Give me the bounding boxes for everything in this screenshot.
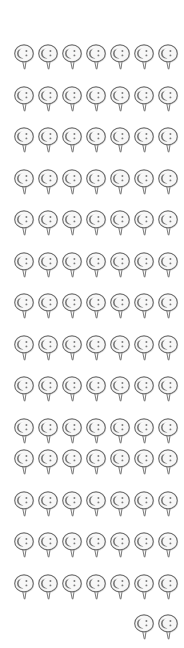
balloon-pin-face-icon[interactable] xyxy=(85,447,107,477)
balloon-pin-face-icon[interactable] xyxy=(109,374,131,404)
balloon-pin-face-icon[interactable] xyxy=(109,167,131,197)
balloon-pin-face-icon[interactable] xyxy=(157,489,179,519)
balloon-pin-face-icon[interactable] xyxy=(37,42,59,72)
balloon-pin-face-icon[interactable] xyxy=(85,530,107,560)
balloon-pin-face-icon[interactable] xyxy=(133,374,155,404)
balloon-pin-face-icon[interactable] xyxy=(37,84,59,114)
balloon-pin-face-icon[interactable] xyxy=(85,333,107,363)
balloon-pin-face-icon[interactable] xyxy=(109,416,131,446)
balloon-pin-face-icon[interactable] xyxy=(13,208,35,238)
balloon-pin-face-icon[interactable] xyxy=(133,250,155,280)
balloon-pin-face-icon[interactable] xyxy=(133,572,155,602)
balloon-pin-face-icon[interactable] xyxy=(61,416,83,446)
balloon-pin-face-icon[interactable] xyxy=(61,291,83,321)
balloon-pin-face-icon[interactable] xyxy=(37,167,59,197)
balloon-pin-face-icon[interactable] xyxy=(85,167,107,197)
balloon-pin-face-icon[interactable] xyxy=(157,250,179,280)
balloon-pin-face-icon[interactable] xyxy=(37,489,59,519)
balloon-pin-face-icon[interactable] xyxy=(13,374,35,404)
balloon-pin-face-icon[interactable] xyxy=(61,42,83,72)
balloon-pin-face-icon[interactable] xyxy=(61,208,83,238)
balloon-pin-face-icon[interactable] xyxy=(37,333,59,363)
balloon-pin-face-icon[interactable] xyxy=(109,42,131,72)
balloon-pin-face-icon[interactable] xyxy=(13,333,35,363)
balloon-pin-face-icon[interactable] xyxy=(13,42,35,72)
balloon-pin-face-icon[interactable] xyxy=(157,42,179,72)
balloon-pin-face-icon[interactable] xyxy=(133,291,155,321)
balloon-pin-face-icon[interactable] xyxy=(13,291,35,321)
balloon-pin-face-icon[interactable] xyxy=(61,125,83,155)
balloon-pin-face-icon[interactable] xyxy=(109,489,131,519)
balloon-pin-face-icon[interactable] xyxy=(133,530,155,560)
balloon-pin-face-icon[interactable] xyxy=(133,42,155,72)
balloon-pin-face-icon[interactable] xyxy=(37,530,59,560)
balloon-pin-face-icon[interactable] xyxy=(133,208,155,238)
balloon-pin-face-icon[interactable] xyxy=(13,572,35,602)
balloon-pin-face-icon[interactable] xyxy=(133,416,155,446)
balloon-pin-face-icon[interactable] xyxy=(61,167,83,197)
balloon-pin-face-icon[interactable] xyxy=(13,416,35,446)
balloon-pin-face-icon[interactable] xyxy=(133,612,155,642)
balloon-pin-face-icon[interactable] xyxy=(85,489,107,519)
balloon-pin-face-icon[interactable] xyxy=(157,612,179,642)
balloon-pin-face-icon[interactable] xyxy=(13,125,35,155)
balloon-pin-face-icon[interactable] xyxy=(157,416,179,446)
balloon-pin-face-icon[interactable] xyxy=(37,250,59,280)
balloon-pin-face-icon[interactable] xyxy=(61,489,83,519)
balloon-pin-face-icon[interactable] xyxy=(109,530,131,560)
balloon-pin-face-icon[interactable] xyxy=(13,489,35,519)
balloon-pin-face-icon[interactable] xyxy=(61,333,83,363)
balloon-pin-face-icon[interactable] xyxy=(13,167,35,197)
balloon-pin-face-icon[interactable] xyxy=(157,84,179,114)
balloon-pin-face-icon[interactable] xyxy=(13,250,35,280)
balloon-pin-face-icon[interactable] xyxy=(85,374,107,404)
balloon-pin-face-icon[interactable] xyxy=(133,84,155,114)
balloon-pin-face-icon[interactable] xyxy=(37,572,59,602)
balloon-pin-face-icon[interactable] xyxy=(133,167,155,197)
balloon-pin-face-icon[interactable] xyxy=(13,447,35,477)
balloon-pin-face-icon[interactable] xyxy=(85,250,107,280)
balloon-pin-face-icon[interactable] xyxy=(109,572,131,602)
balloon-pin-face-icon[interactable] xyxy=(61,250,83,280)
balloon-pin-face-icon[interactable] xyxy=(13,84,35,114)
balloon-pin-face-icon[interactable] xyxy=(109,84,131,114)
balloon-pin-face-icon[interactable] xyxy=(37,374,59,404)
balloon-pin-face-icon[interactable] xyxy=(37,208,59,238)
balloon-pin-face-icon[interactable] xyxy=(157,530,179,560)
balloon-pin-face-icon[interactable] xyxy=(109,208,131,238)
balloon-pin-face-icon[interactable] xyxy=(157,291,179,321)
balloon-pin-face-icon[interactable] xyxy=(85,125,107,155)
balloon-pin-face-icon[interactable] xyxy=(109,447,131,477)
balloon-pin-face-icon[interactable] xyxy=(85,208,107,238)
balloon-pin-face-icon[interactable] xyxy=(37,447,59,477)
balloon-pin-face-icon[interactable] xyxy=(37,416,59,446)
balloon-pin-face-icon[interactable] xyxy=(109,250,131,280)
balloon-pin-face-icon[interactable] xyxy=(133,447,155,477)
balloon-pin-face-icon[interactable] xyxy=(157,447,179,477)
balloon-pin-face-icon[interactable] xyxy=(61,84,83,114)
balloon-pin-face-icon[interactable] xyxy=(61,572,83,602)
balloon-pin-face-icon[interactable] xyxy=(13,530,35,560)
balloon-pin-face-icon[interactable] xyxy=(85,84,107,114)
balloon-pin-face-icon[interactable] xyxy=(61,530,83,560)
balloon-pin-face-icon[interactable] xyxy=(133,125,155,155)
balloon-pin-face-icon[interactable] xyxy=(85,416,107,446)
balloon-pin-face-icon[interactable] xyxy=(157,167,179,197)
balloon-pin-face-icon[interactable] xyxy=(109,125,131,155)
balloon-pin-face-icon[interactable] xyxy=(157,125,179,155)
balloon-pin-face-icon[interactable] xyxy=(37,125,59,155)
balloon-pin-face-icon[interactable] xyxy=(109,333,131,363)
balloon-pin-face-icon[interactable] xyxy=(61,447,83,477)
balloon-pin-face-icon[interactable] xyxy=(133,489,155,519)
balloon-pin-face-icon[interactable] xyxy=(109,291,131,321)
balloon-pin-face-icon[interactable] xyxy=(157,374,179,404)
balloon-pin-face-icon[interactable] xyxy=(157,208,179,238)
balloon-pin-face-icon[interactable] xyxy=(157,333,179,363)
balloon-pin-face-icon[interactable] xyxy=(37,291,59,321)
balloon-pin-face-icon[interactable] xyxy=(85,572,107,602)
balloon-pin-face-icon[interactable] xyxy=(85,42,107,72)
balloon-pin-face-icon[interactable] xyxy=(133,333,155,363)
balloon-pin-face-icon[interactable] xyxy=(157,572,179,602)
balloon-pin-face-icon[interactable] xyxy=(85,291,107,321)
balloon-pin-face-icon[interactable] xyxy=(61,374,83,404)
